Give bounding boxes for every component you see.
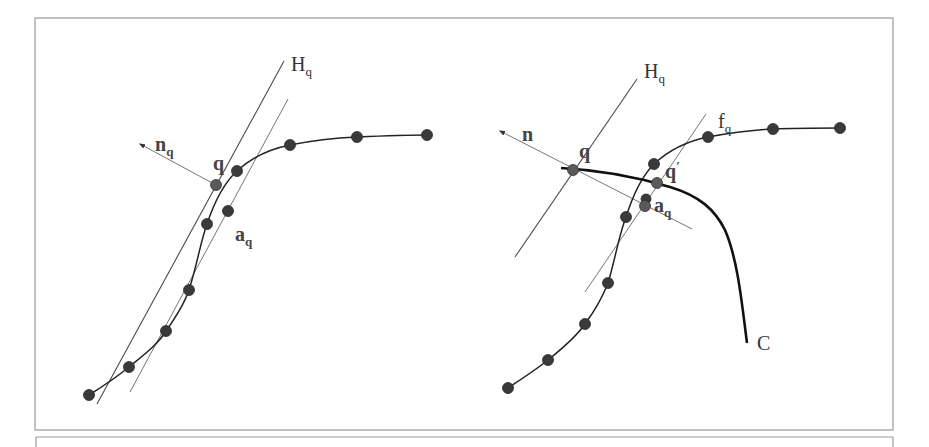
label-aq: aq [235,223,253,249]
left-point-set [84,130,433,401]
point-q [211,180,222,191]
point-q-prime [652,178,663,189]
label-q-right: q [579,140,590,163]
sample-point-left-1 [124,362,135,373]
label-c: C [757,332,770,354]
sample-point-left-7 [352,132,363,143]
sample-point-left-4 [202,219,213,230]
sample-point-right-1 [543,355,554,366]
label-hq: Hq [291,53,312,79]
figure-frame [35,18,893,430]
label-fq: fq [718,110,732,136]
label-q: q [213,152,224,175]
sample-point-right-2 [580,319,591,330]
sample-point-right-7 [768,124,779,135]
sample-point-left-8 [422,130,433,141]
label-hq-right: Hq [644,60,665,86]
label-n: n [522,123,533,145]
diagram-figure: Hq nq q aq Hq fq n q q′ aq C [0,0,929,447]
sample-point-right-8 [835,123,846,134]
label-q-prime: q′ [665,158,680,183]
sample-point-right-0 [503,383,514,394]
point-aq [223,206,234,217]
sample-point-right-6 [703,132,714,143]
label-nq: nq [155,133,174,159]
plane-line-hq [97,61,284,404]
point-aq-right [640,201,651,212]
sample-point-left-6 [285,140,296,151]
sample-point-left-2 [161,326,172,337]
sample-point-right-3 [603,278,614,289]
left-panel: Hq nq q aq [84,53,433,404]
point-q-right [568,165,579,176]
point-sequence-curve [89,135,427,395]
right-panel: Hq fq n q q′ aq C [500,60,846,394]
sample-point-left-5 [232,166,243,177]
sample-point-left-0 [84,390,95,401]
sample-point-left-3 [184,285,195,296]
sample-point-right-5 [649,159,660,170]
anchor-line [130,99,288,392]
normal-arrow-nq [140,144,216,185]
sample-point-right-4 [621,212,632,223]
label-aq-right: aq [654,194,672,220]
